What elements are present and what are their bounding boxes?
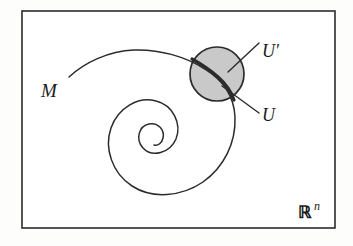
figure-container: a b c d e f g h i j k l m ( x ) ( y ) ( … [0,0,353,246]
label-space-exponent: n [314,199,320,213]
label-manifold-M: M [40,80,58,101]
shaded-neighborhood-disc [190,47,244,101]
manifold-diagram-svg: a b c d e f g h i j k l m ( x ) ( y ) ( … [0,0,353,246]
ambient-space-frame [22,11,335,228]
label-ambient-open-u-prime: U′ [262,41,280,61]
label-chart-open-u: U [262,105,276,125]
label-space-symbol: ℝ [298,203,312,222]
